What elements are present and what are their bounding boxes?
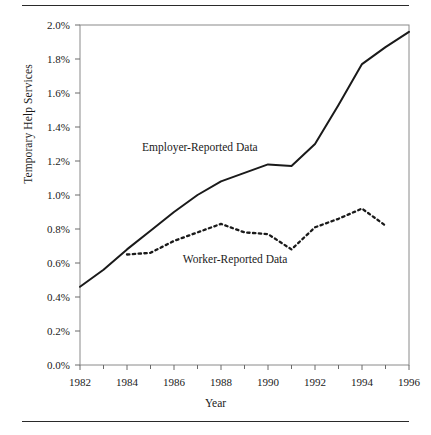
data-series-group: [80, 32, 409, 287]
line-chart: 0.0%0.2%0.4%0.6%0.8%1.0%1.2%1.4%1.6%1.8%…: [0, 0, 431, 435]
x-axis-ticks: [80, 365, 409, 370]
y-tick-label: 2.0%: [47, 19, 70, 31]
y-tick-label: 0.6%: [47, 257, 70, 269]
y-axis-title: Temporary Help Services: [22, 24, 34, 224]
series-line-worker: [127, 209, 386, 255]
y-tick-label: 1.0%: [47, 189, 70, 201]
y-tick-label: 1.8%: [47, 53, 70, 65]
y-tick-label: 0.2%: [47, 325, 70, 337]
y-axis-ticks: [75, 25, 80, 365]
series-label-worker: Worker-Reported Data: [183, 253, 288, 266]
y-tick-label: 1.6%: [47, 87, 70, 99]
series-annotations: Employer-Reported DataWorker-Reported Da…: [142, 141, 287, 266]
chart-svg: 0.0%0.2%0.4%0.6%0.8%1.0%1.2%1.4%1.6%1.8%…: [0, 0, 431, 435]
x-tick-label: 1996: [398, 376, 421, 388]
series-line-employer: [80, 32, 409, 287]
y-tick-label: 0.8%: [47, 223, 70, 235]
y-tick-label: 1.2%: [47, 155, 70, 167]
x-tick-label: 1984: [116, 376, 139, 388]
y-tick-label: 0.0%: [47, 359, 70, 371]
x-tick-label: 1994: [351, 376, 374, 388]
x-tick-label: 1982: [69, 376, 91, 388]
series-label-employer: Employer-Reported Data: [142, 141, 258, 154]
x-tick-label: 1986: [163, 376, 186, 388]
y-axis-tick-labels: 0.0%0.2%0.4%0.6%0.8%1.0%1.2%1.4%1.6%1.8%…: [47, 19, 70, 371]
x-tick-label: 1988: [210, 376, 233, 388]
y-tick-label: 0.4%: [47, 291, 70, 303]
plot-frame: [80, 25, 409, 365]
x-axis-tick-labels: 19821984198619881990199219941996: [69, 376, 421, 388]
y-tick-label: 1.4%: [47, 121, 70, 133]
figure-container: 0.0%0.2%0.4%0.6%0.8%1.0%1.2%1.4%1.6%1.8%…: [0, 0, 431, 435]
x-axis-title: Year: [0, 397, 431, 409]
x-tick-label: 1992: [304, 376, 326, 388]
x-tick-label: 1990: [257, 376, 280, 388]
